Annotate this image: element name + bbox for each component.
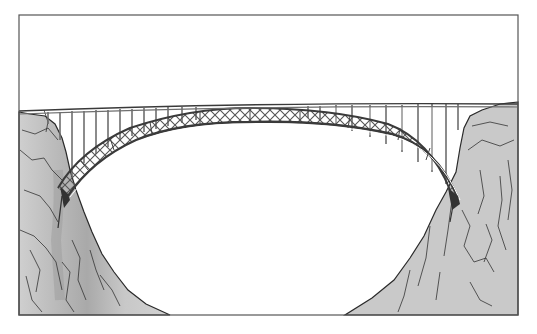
bridge-illustration: [0, 0, 537, 334]
